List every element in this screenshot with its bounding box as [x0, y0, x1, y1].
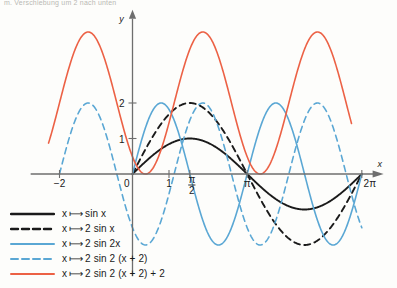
- y-tick-label: 2: [119, 98, 125, 109]
- legend-swatch: [10, 224, 55, 234]
- legend-item-4: x⟼2 sin 2 (x + 2): [10, 251, 200, 266]
- x-tick-label: −2: [54, 178, 66, 189]
- legend-swatch: [10, 239, 55, 249]
- x-tick-label: π: [244, 178, 251, 189]
- legend-item-1: x⟼sin x: [10, 206, 200, 221]
- legend-label: x⟼2 sin 2 (x + 2): [62, 253, 147, 264]
- y-tick-label: 1: [119, 134, 125, 145]
- legend-label: x⟼2 sin 2x: [62, 238, 120, 249]
- x-tick-label: 0: [124, 178, 130, 189]
- legend: x⟼sin xx⟼2 sin xx⟼2 sin 2xx⟼2 sin 2 (x +…: [10, 206, 200, 281]
- svg-text:2: 2: [189, 185, 195, 196]
- x-axis-label: x: [376, 159, 382, 169]
- legend-swatch: [10, 254, 55, 264]
- svg-text:π: π: [188, 174, 195, 185]
- legend-swatch: [10, 269, 55, 279]
- x-tick-label: 2π: [364, 178, 377, 189]
- legend-item-3: x⟼2 sin 2x: [10, 236, 200, 251]
- legend-label: x⟼sin x: [62, 208, 106, 219]
- legend-label: x⟼2 sin 2 (x + 2) + 2: [62, 268, 165, 279]
- x-axis-arrow: [373, 170, 384, 177]
- top-note-text: m. Verschiebung um 2 nach unten: [4, 0, 116, 6]
- sine-transformations-figure: m. Verschiebung um 2 nach unten −201π2π2…: [0, 0, 397, 288]
- y-axis-label: y: [118, 14, 124, 24]
- legend-label: x⟼2 sin x: [62, 223, 115, 234]
- tick-label-group: −201π2π2π12yx: [54, 14, 383, 196]
- legend-item-5: x⟼2 sin 2 (x + 2) + 2: [10, 266, 200, 281]
- x-tick-label: 1: [166, 178, 172, 189]
- legend-swatch: [10, 209, 55, 219]
- y-axis-arrow: [129, 10, 136, 19]
- x-tick-label-pi-over-2: π2: [188, 174, 195, 196]
- legend-item-2: x⟼2 sin x: [10, 221, 200, 236]
